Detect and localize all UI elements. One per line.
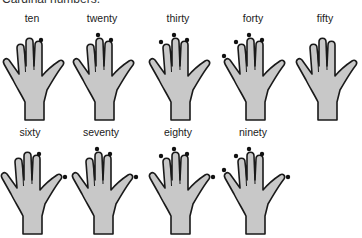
number-label: eighty xyxy=(143,126,213,138)
count-dot-icon xyxy=(234,154,238,158)
hand-icon xyxy=(143,144,213,234)
hand-icon xyxy=(143,30,213,120)
hand-icon xyxy=(66,144,136,234)
hand-icon xyxy=(67,30,137,120)
number-hand-ninety: ninety xyxy=(218,126,298,238)
count-dot-icon xyxy=(247,147,251,151)
count-dot-icon xyxy=(222,54,226,58)
number-label: forty xyxy=(218,12,288,24)
count-dot-icon xyxy=(286,175,290,179)
count-dot-icon xyxy=(247,33,251,37)
number-hand-thirty: thirty xyxy=(143,12,223,124)
count-dot-icon xyxy=(95,147,99,151)
count-dot-icon xyxy=(37,152,41,156)
number-hand-twenty: twenty xyxy=(67,12,147,124)
count-dot-icon xyxy=(211,175,215,179)
number-hand-sixty: sixty xyxy=(0,126,75,238)
hand-icon xyxy=(218,144,288,234)
number-label: seventy xyxy=(66,126,136,138)
count-dot-icon xyxy=(96,33,100,37)
number-hand-fifty: fifty xyxy=(290,12,362,124)
count-dot-icon xyxy=(172,147,176,151)
page-title: Cardinal numbers. xyxy=(2,0,100,6)
number-label: fifty xyxy=(290,12,360,24)
hand-icon xyxy=(218,30,288,120)
count-dot-icon xyxy=(108,152,112,156)
number-hand-eighty: eighty xyxy=(143,126,223,238)
count-dot-icon xyxy=(185,38,189,42)
hand-icon xyxy=(0,144,65,234)
count-dot-icon xyxy=(159,154,163,158)
hand-icon xyxy=(0,30,67,120)
count-dot-icon xyxy=(260,152,264,156)
count-dot-icon xyxy=(134,175,138,179)
count-dot-icon xyxy=(39,38,43,42)
number-hand-ten: ten xyxy=(0,12,77,124)
count-dot-icon xyxy=(172,33,176,37)
number-label: twenty xyxy=(67,12,137,24)
count-dot-icon xyxy=(185,152,189,156)
hand-icon xyxy=(290,30,360,120)
number-label: ten xyxy=(0,12,67,24)
count-dot-icon xyxy=(260,38,264,42)
number-label: thirty xyxy=(143,12,213,24)
count-dot-icon xyxy=(109,38,113,42)
number-label: sixty xyxy=(0,126,65,138)
number-hand-forty: forty xyxy=(218,12,298,124)
number-label: ninety xyxy=(218,126,288,138)
count-dot-icon xyxy=(159,40,163,44)
number-hand-seventy: seventy xyxy=(66,126,146,238)
count-dot-icon xyxy=(234,40,238,44)
count-dot-icon xyxy=(222,168,226,172)
